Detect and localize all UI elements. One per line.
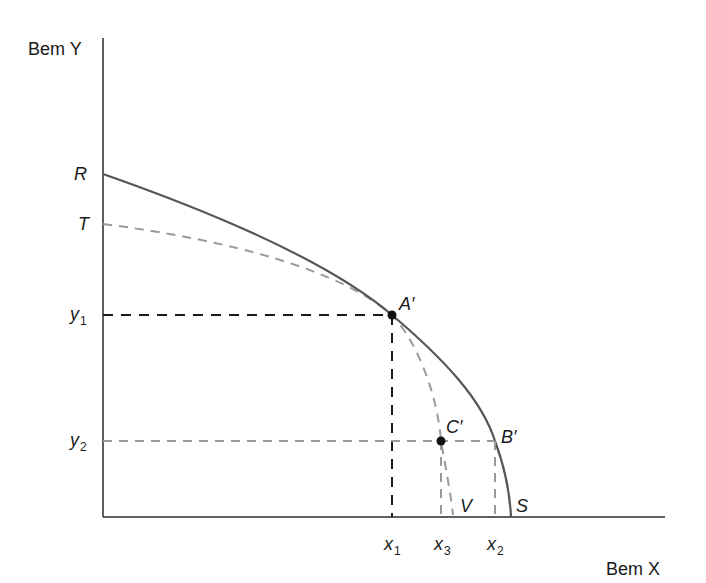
x3-base: x [434,534,443,554]
x-axis-label: Bem X [606,560,660,578]
y1-sub: 1 [80,314,87,328]
curve-rs [103,174,511,517]
label-x3: x3 [434,535,451,553]
label-y2: y2 [70,431,87,449]
label-r: R [74,165,87,183]
x1-sub: 1 [394,544,401,558]
y2-sub: 2 [80,440,87,454]
label-t: T [78,215,89,233]
label-y1: y1 [70,305,87,323]
label-v: V [460,497,472,515]
point-a [388,311,397,320]
y2-base: y [70,430,79,450]
y-axis-label: Bem Y [28,40,82,58]
y1-base: y [70,304,79,324]
label-c-prime: C′ [446,418,462,436]
x1-base: x [384,534,393,554]
label-a-prime: A′ [399,295,414,313]
label-s: S [516,497,528,515]
label-x1: x1 [384,535,401,553]
x2-base: x [487,534,496,554]
point-c [437,437,446,446]
label-x2: x2 [487,535,504,553]
label-b-prime: B′ [501,428,516,446]
curve-tv [103,224,453,515]
x2-sub: 2 [497,544,504,558]
ppf-diagram [0,0,706,583]
x3-sub: 3 [444,544,451,558]
